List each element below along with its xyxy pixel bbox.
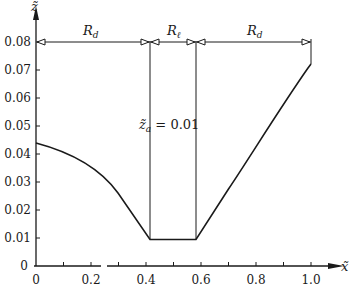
- svg-text:0.06: 0.06: [4, 91, 31, 105]
- za-annotation: z̃a = 0.01: [138, 117, 199, 134]
- svg-text:0.01: 0.01: [4, 231, 31, 245]
- y-axis-label: z̃: [30, 0, 38, 14]
- arrowhead-icon: [141, 39, 149, 45]
- svg-text:1.0: 1.0: [301, 273, 320, 287]
- x-tick-labels: 0 0.2 0.4 0.6 0.8 1.0: [32, 273, 320, 287]
- svg-text:0: 0: [20, 259, 28, 273]
- region-label-left: Rd: [82, 23, 99, 40]
- arrowhead-icon: [302, 39, 310, 45]
- svg-text:0.07: 0.07: [4, 63, 31, 77]
- svg-text:0.03: 0.03: [4, 175, 31, 189]
- svg-text:0.6: 0.6: [191, 273, 210, 287]
- svg-text:0.8: 0.8: [246, 273, 265, 287]
- region-label-right: Rd: [246, 23, 263, 40]
- region-label-mid: Rℓ: [166, 23, 181, 40]
- arrowhead-icon: [187, 39, 195, 45]
- dimension-line: [37, 39, 311, 45]
- arrowhead-icon: [151, 39, 159, 45]
- chart-canvas: z̃ x̃ 0 0.01 0.02 0.03 0.04 0.05 0.06 0.…: [0, 0, 352, 292]
- y-tick-labels: 0 0.01 0.02 0.03 0.04 0.05 0.06 0.07 0.0…: [4, 35, 31, 273]
- arrowhead-icon: [197, 39, 205, 45]
- svg-text:0.08: 0.08: [4, 35, 31, 49]
- svg-text:0.2: 0.2: [81, 273, 100, 287]
- x-axis-label: x̃: [341, 259, 349, 274]
- svg-text:0.05: 0.05: [4, 119, 31, 133]
- profile-curve: [36, 64, 311, 240]
- svg-text:0: 0: [32, 273, 40, 287]
- svg-text:0.02: 0.02: [4, 203, 31, 217]
- svg-text:0.04: 0.04: [4, 147, 31, 161]
- arrowhead-icon: [37, 39, 45, 45]
- svg-text:0.4: 0.4: [136, 273, 155, 287]
- region-dividers: [150, 39, 311, 239]
